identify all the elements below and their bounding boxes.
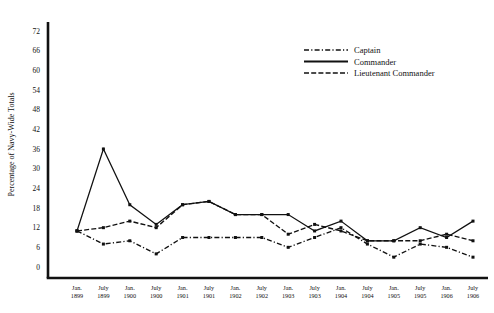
x-tick-label: Jan.1903	[282, 284, 294, 299]
legend-item-lieutenant-commander: Lieutenant Commander	[304, 68, 435, 78]
data-point-marker	[208, 236, 211, 239]
data-point-marker	[102, 148, 105, 151]
legend-item-captain: Captain	[304, 45, 381, 55]
x-tick-year: 1904	[361, 292, 373, 299]
data-point-marker	[313, 236, 316, 239]
x-tick-year: 1906	[467, 292, 479, 299]
data-point-marker	[287, 246, 290, 249]
y-tick-label: 18	[33, 204, 41, 213]
x-tick-year: 1903	[308, 292, 320, 299]
x-tick-year: 1900	[124, 292, 136, 299]
x-tick-month: July	[468, 284, 479, 291]
y-tick-label: 0	[36, 263, 40, 272]
legend-label: Lieutenant Commander	[354, 68, 435, 78]
y-axis-title-text: Percentage of Navy-Wide Totals	[7, 92, 16, 196]
data-point-marker	[445, 233, 448, 236]
y-tick-label: 42	[33, 125, 41, 134]
x-tick-month: Jan.	[178, 284, 188, 291]
x-tick-month: Jan.	[442, 284, 452, 291]
line-chart: Percentage of Navy-Wide Totals 061218243…	[0, 0, 494, 313]
x-tick-label: Jan.1906	[440, 284, 452, 299]
data-point-marker	[445, 236, 448, 239]
legend-label: Captain	[354, 45, 381, 55]
x-tick-label: Jan.1905	[388, 284, 400, 299]
data-point-marker	[392, 256, 395, 259]
data-point-marker	[260, 213, 263, 216]
x-tick-label: July1905	[414, 284, 426, 299]
data-point-marker	[128, 220, 131, 223]
y-tick-label: 24	[33, 184, 41, 193]
data-point-marker	[419, 239, 422, 242]
x-tick-month: July	[309, 284, 320, 291]
x-tick-month: July	[415, 284, 426, 291]
chart-legend: CaptainCommanderLieutenant Commander	[304, 45, 435, 78]
y-tick-label: 30	[33, 164, 41, 173]
data-point-marker	[366, 243, 369, 246]
legend-label: Commander	[354, 57, 396, 67]
y-tick-label: 6	[36, 243, 40, 252]
x-tick-label: Jan.1904	[335, 284, 347, 299]
data-point-marker	[181, 203, 184, 206]
legend-item-commander: Commander	[304, 57, 396, 67]
x-tick-label: July1902	[256, 284, 268, 299]
data-point-marker	[128, 239, 131, 242]
series-line-commander	[77, 149, 473, 241]
x-tick-year: 1899	[71, 292, 83, 299]
x-tick-year: 1900	[150, 292, 162, 299]
x-tick-label: Jan.1902	[229, 284, 241, 299]
data-point-marker	[313, 229, 316, 232]
x-tick-year: 1902	[229, 292, 241, 299]
data-point-marker	[472, 220, 475, 223]
x-tick-label: Jan.1900	[124, 284, 136, 299]
x-tick-year: 1901	[203, 292, 215, 299]
data-point-marker	[155, 252, 158, 255]
x-tick-month: Jan.	[336, 284, 346, 291]
chart-container: Percentage of Navy-Wide Totals 061218243…	[0, 0, 494, 313]
data-point-marker	[340, 220, 343, 223]
data-point-marker	[472, 256, 475, 259]
y-tick-label: 12	[33, 223, 41, 232]
data-point-marker	[419, 243, 422, 246]
y-tick-label: 72	[33, 27, 41, 36]
y-axis-tick-labels: 061218243036424854606672	[33, 27, 41, 272]
data-point-marker	[102, 243, 105, 246]
x-tick-label: July1901	[203, 284, 215, 299]
data-point-marker	[392, 239, 395, 242]
data-point-marker	[102, 226, 105, 229]
x-tick-month: Jan.	[389, 284, 399, 291]
data-point-marker	[419, 226, 422, 229]
data-point-marker	[155, 223, 158, 226]
data-point-marker	[155, 226, 158, 229]
data-point-marker	[181, 236, 184, 239]
x-tick-year: 1906	[440, 292, 452, 299]
y-tick-label: 60	[33, 66, 41, 75]
x-tick-year: 1901	[176, 292, 188, 299]
x-tick-label: July1899	[97, 284, 109, 299]
x-tick-label: July1903	[308, 284, 320, 299]
data-point-marker	[208, 200, 211, 203]
x-tick-year: 1903	[282, 292, 294, 299]
data-point-marker	[76, 229, 79, 232]
x-tick-year: 1904	[335, 292, 347, 299]
x-tick-month: Jan.	[72, 284, 82, 291]
series-line-captain	[77, 228, 473, 258]
x-axis-tick-labels: Jan.1899July1899Jan.1900July1900Jan.1901…	[71, 284, 479, 299]
data-series-group	[77, 149, 473, 257]
y-axis-title: Percentage of Navy-Wide Totals	[7, 92, 16, 196]
x-tick-month: July	[257, 284, 268, 291]
x-tick-label: July1904	[361, 284, 373, 299]
y-tick-label: 48	[33, 105, 41, 114]
x-tick-label: July1906	[467, 284, 479, 299]
data-point-marker	[313, 223, 316, 226]
x-tick-month: Jan.	[231, 284, 241, 291]
y-tick-label: 66	[33, 46, 41, 55]
data-point-marker	[340, 229, 343, 232]
data-point-marker	[340, 226, 343, 229]
data-point-marker	[128, 203, 131, 206]
x-tick-year: 1905	[414, 292, 426, 299]
x-tick-month: July	[151, 284, 162, 291]
data-point-marker	[472, 239, 475, 242]
x-tick-label: July1900	[150, 284, 162, 299]
data-point-marker	[234, 213, 237, 216]
data-point-marker	[287, 233, 290, 236]
